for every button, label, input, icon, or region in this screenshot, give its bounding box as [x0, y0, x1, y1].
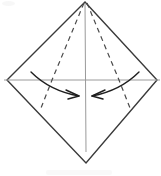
origami-diagram-container — [0, 0, 161, 176]
origami-fold-diagram-svg — [0, 0, 161, 176]
